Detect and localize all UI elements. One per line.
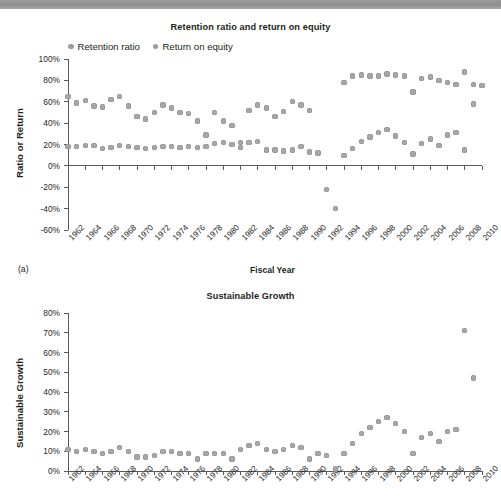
x-axis-tick (292, 166, 293, 170)
y-axis-tick (64, 59, 68, 60)
data-point (307, 456, 312, 461)
y-axis-tick (64, 208, 68, 209)
data-point (221, 451, 226, 456)
data-point (410, 151, 415, 156)
data-point (384, 71, 389, 76)
y-axis-tick-label: 60% (26, 348, 60, 358)
data-point (479, 83, 484, 88)
data-point (272, 449, 277, 454)
x-axis-tick-label: 1972 (153, 223, 172, 242)
data-point (272, 147, 277, 152)
data-point (428, 74, 433, 79)
data-point (83, 98, 88, 103)
data-point (367, 73, 372, 78)
data-point (229, 142, 234, 147)
data-point (186, 144, 191, 149)
data-point (221, 140, 226, 145)
data-point (341, 451, 346, 456)
data-point (238, 140, 243, 145)
data-point (445, 429, 450, 434)
x-axis-tick (395, 166, 396, 170)
y-axis-tick-label: 30% (26, 407, 60, 417)
y-axis-tick-label: 0% (26, 161, 60, 171)
x-axis-tick-label: 1990 (309, 464, 328, 483)
data-point (462, 328, 467, 333)
data-point (74, 449, 79, 454)
data-point (108, 97, 113, 102)
data-point (462, 147, 467, 152)
data-point (471, 101, 476, 106)
data-point (195, 145, 200, 150)
data-point (445, 80, 450, 85)
x-axis-tick-label: 1978 (205, 464, 224, 483)
data-point (246, 108, 251, 113)
x-axis-tick (464, 166, 465, 170)
x-axis-tick-label: 1974 (171, 223, 190, 242)
data-point (402, 140, 407, 145)
x-axis-tick-label: 2006 (447, 464, 466, 483)
data-point (255, 139, 260, 144)
data-point (74, 144, 79, 149)
x-axis-tick-label: 1994 (343, 223, 362, 242)
x-axis-tick-label: 1968 (119, 464, 138, 483)
data-point (359, 431, 364, 436)
x-axis-tick-label: 1962 (67, 223, 86, 242)
data-point (143, 454, 148, 459)
data-point (134, 454, 139, 459)
x-axis-tick-label: 1998 (378, 464, 397, 483)
data-point (376, 419, 381, 424)
data-point (410, 89, 415, 94)
data-point (384, 127, 389, 132)
y-axis-tick-label: 80% (26, 308, 60, 318)
data-point (108, 449, 113, 454)
y-axis-tick (64, 187, 68, 188)
data-point (333, 206, 338, 211)
data-point (65, 94, 70, 99)
data-point (471, 375, 476, 380)
data-point (160, 102, 165, 107)
data-point (324, 453, 329, 458)
data-point (359, 139, 364, 144)
y-axis-tick-label: 100% (26, 54, 60, 64)
data-point (160, 449, 165, 454)
data-point (315, 451, 320, 456)
data-point (238, 447, 243, 452)
x-axis-tick-label: 1974 (171, 464, 190, 483)
data-point (298, 102, 303, 107)
panel-tag-a: (a) (18, 264, 29, 274)
x-axis-tick-label: 1988 (291, 464, 310, 483)
data-point (91, 103, 96, 108)
data-point (221, 118, 226, 123)
data-point (410, 451, 415, 456)
x-axis-tick-label: 1970 (136, 223, 155, 242)
x-axis-tick (68, 166, 69, 170)
data-point (203, 451, 208, 456)
data-point (367, 425, 372, 430)
x-axis-tick-label: 1970 (136, 464, 155, 483)
data-point (195, 456, 200, 461)
data-point (117, 94, 122, 99)
data-point (264, 447, 269, 452)
y-axis-tick-label: 40% (26, 118, 60, 128)
data-point (350, 146, 355, 151)
data-point (290, 147, 295, 152)
x-axis-tick-label: 1964 (84, 223, 103, 242)
data-point (100, 146, 105, 151)
x-axis-tick-label: 2004 (429, 464, 448, 483)
data-point (117, 445, 122, 450)
data-point (298, 144, 303, 149)
x-axis-tick-label: 2010 (481, 223, 500, 242)
data-point (350, 441, 355, 446)
data-point (436, 78, 441, 83)
data-point (100, 104, 105, 109)
data-point (186, 451, 191, 456)
data-point (126, 144, 131, 149)
y-axis-tick-label: -20% (26, 182, 60, 192)
data-point (419, 76, 424, 81)
data-point (83, 143, 88, 148)
data-point (402, 429, 407, 434)
data-point (307, 149, 312, 154)
x-axis-tick-label: 1984 (257, 223, 276, 242)
data-point (255, 102, 260, 107)
data-point (264, 105, 269, 110)
